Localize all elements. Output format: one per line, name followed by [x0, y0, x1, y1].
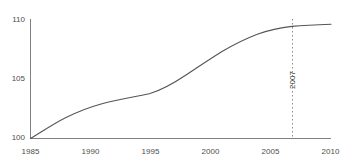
x-tick-label-2000: 2000 — [194, 148, 227, 156]
x-tick-label-2010: 2010 — [314, 148, 344, 156]
x-tick-label-1985: 1985 — [14, 148, 47, 156]
x-tick-label-2005: 2005 — [254, 148, 287, 156]
y-tick-label-100: 100 — [0, 134, 25, 142]
x-tick-label-1995: 1995 — [134, 148, 167, 156]
y-tick-label-110: 110 — [0, 16, 25, 24]
x-tick-label-1990: 1990 — [74, 148, 107, 156]
line-chart: 110 105 100 1985 1990 1995 2000 2005 201… — [0, 0, 344, 168]
y-tick-label-105: 105 — [0, 75, 25, 83]
data-line-series-index — [31, 24, 332, 138]
annotation-label-2007: 2007 — [289, 70, 297, 90]
